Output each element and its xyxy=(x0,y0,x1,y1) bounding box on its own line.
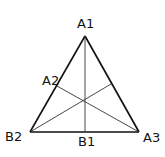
median-b2-right xyxy=(30,84,111,132)
label-a1: A1 xyxy=(77,16,94,31)
label-a3: A3 xyxy=(143,130,160,145)
label-b2: B2 xyxy=(5,129,22,144)
label-b1: B1 xyxy=(78,134,95,149)
side-a1-a3 xyxy=(85,36,139,132)
label-a2: A2 xyxy=(42,73,59,88)
triangle-diagram: A1 A2 B2 B1 A3 xyxy=(0,0,165,157)
